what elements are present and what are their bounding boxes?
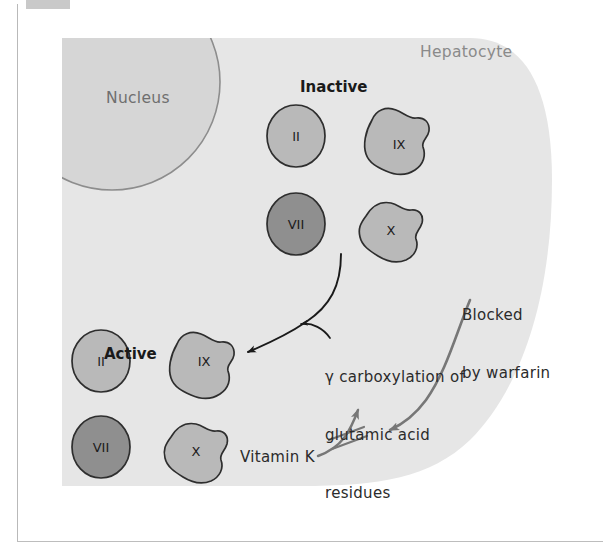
factor-ix-active-label: IX (198, 354, 211, 369)
gamma-carboxylation-line-3: residues (325, 484, 465, 503)
hepatocyte-label: Hepatocyte (420, 43, 512, 63)
factor-ix-inactive-label: IX (393, 137, 406, 152)
factor-x-active-label: X (192, 444, 201, 459)
blocked-by-warfarin-label: Blocked by warfarin (462, 268, 550, 422)
gamma-carboxylation-label: γ carboxylation of glutamic acid residue… (325, 330, 465, 541)
factor-x-inactive-label: X (387, 223, 396, 238)
gamma-carboxylation-line-1: γ carboxylation of (325, 368, 465, 387)
inactive-group-label: Inactive (300, 78, 368, 97)
active-group-label: Active (104, 345, 157, 364)
gamma-carboxylation-line-2: glutamic acid (325, 426, 465, 445)
factor-vii-active: VII (72, 416, 130, 478)
blocked-by-warfarin-line-1: Blocked (462, 306, 550, 325)
blocked-by-warfarin-line-2: by warfarin (462, 364, 550, 383)
factor-ii-inactive-label: II (292, 129, 300, 144)
factor-ix-inactive: IX (365, 108, 429, 174)
factor-vii-inactive-label: VII (288, 217, 305, 232)
factor-ii-inactive: II (267, 105, 325, 167)
factor-vii-inactive: VII (267, 193, 325, 255)
nucleus-label: Nucleus (106, 89, 170, 109)
factor-ix-active: IX (170, 332, 234, 398)
figure-page: II IX VII X II (0, 0, 604, 559)
factor-vii-active-label: VII (93, 440, 110, 455)
vitamin-k-label: Vitamin K (240, 448, 315, 467)
